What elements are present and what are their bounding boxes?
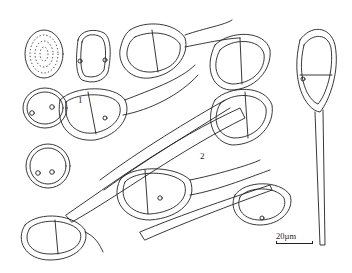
panel-label-2: 2 <box>200 151 205 161</box>
teliospore-center-top <box>210 34 270 90</box>
panel-label-1: 1 <box>78 95 83 105</box>
urediniospore-section-c <box>26 144 70 188</box>
teliospore-top-left <box>120 20 240 78</box>
urediniospore-surface-view <box>25 30 63 78</box>
urediniospore-section-a <box>77 30 111 82</box>
teliospore-center-right <box>210 89 272 145</box>
teliospore-bottom-right <box>233 184 291 225</box>
scale-bar <box>276 243 313 244</box>
urediniospore-section-b <box>23 88 67 128</box>
teliospore-bottom-left <box>21 216 103 260</box>
line-drawing <box>0 0 352 273</box>
scale-bar-label: 20µm <box>276 231 296 241</box>
teliospore-right-vertical <box>297 29 337 245</box>
scientific-figure: 1 2 20µm <box>0 0 352 273</box>
